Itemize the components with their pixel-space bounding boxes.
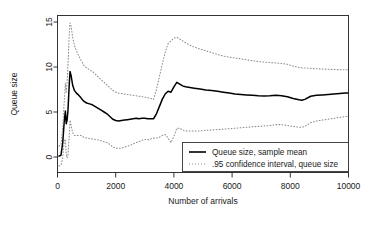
x-tick-label: 0	[55, 181, 60, 191]
x-tick-label: 8000	[281, 181, 300, 191]
y-axis-title: Queue size	[9, 72, 19, 115]
plot-background	[0, 0, 375, 229]
y-tick-label: 15	[44, 17, 54, 27]
x-tick-label: 4000	[164, 181, 183, 191]
legend-label-mean: Queue size, sample mean	[212, 148, 308, 157]
legend-box[interactable]: Queue size, sample mean .95 confidence i…	[183, 143, 349, 172]
x-tick-label: 2000	[106, 181, 125, 191]
chart-screenshot: 051015 0200040006000800010000 Queue size…	[0, 0, 375, 229]
y-tick-label: 5	[44, 109, 54, 114]
x-axis-title: Number of arrivals	[168, 196, 237, 206]
x-tick-label: 6000	[223, 181, 242, 191]
x-tick-label: 10000	[337, 181, 361, 191]
legend-label-ci: .95 confidence interval, queue size	[212, 160, 339, 169]
queue-size-plot: 051015 0200040006000800010000 Queue size…	[0, 0, 375, 229]
y-tick-label: 0	[44, 154, 54, 159]
y-tick-label: 10	[44, 62, 54, 72]
